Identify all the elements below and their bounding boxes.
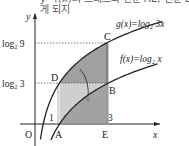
tick-label-log2-9: log₂ 9	[2, 39, 25, 49]
x-axis-label: x	[152, 129, 158, 140]
y-axis-label: y	[25, 11, 31, 22]
x-axis-arrow-icon	[154, 122, 160, 126]
y-axis-arrow-icon	[33, 13, 37, 19]
origin-label: O	[25, 129, 32, 140]
point-label-E: E	[102, 129, 108, 140]
tick-label-x1: 1	[49, 113, 54, 123]
log-graph-diagram: y x O log₂ 9 log₂ 3 1 3 A E B C D g(x)=l…	[0, 0, 189, 146]
curve-label-f: f(x)=log₂ x	[120, 54, 162, 65]
tick-label-x3: 3	[108, 113, 113, 123]
point-label-C: C	[104, 31, 111, 42]
tick-label-log2-3: log₂ 3	[2, 79, 25, 89]
shaded-region-upper	[60, 42, 109, 83]
point-label-B: B	[109, 85, 116, 96]
point-label-D: D	[51, 72, 58, 83]
